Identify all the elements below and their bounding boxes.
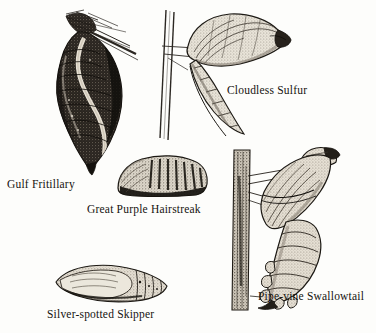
figure-cloudless-sulfur	[152, 2, 292, 142]
cremaster-attachment	[66, 13, 96, 34]
stem-support	[160, 10, 196, 140]
wing-case	[187, 14, 284, 66]
pupa-body	[56, 265, 168, 306]
figure-great-purple-hairstreak	[112, 152, 212, 200]
abdomen	[190, 60, 244, 134]
figure-gulf-fritillary	[26, 4, 146, 176]
pupa-body	[118, 156, 208, 200]
caption-pipe-vine-swallowtail: Pipe-vine Swallowtail	[258, 290, 364, 302]
illustration-plate: Gulf Fritillary	[0, 0, 376, 333]
caption-great-purple-hairstreak: Great Purple Hairstreak	[87, 203, 201, 215]
caption-gulf-fritillary: Gulf Fritillary	[7, 178, 75, 190]
caption-cloudless-sulfur: Cloudless Sulfur	[227, 84, 307, 96]
caption-silver-spotted-skipper: Silver-spotted Skipper	[47, 308, 154, 320]
wing-case	[260, 155, 331, 229]
figure-pipe-vine-swallowtail	[228, 146, 376, 311]
figure-silver-spotted-skipper	[52, 256, 172, 306]
